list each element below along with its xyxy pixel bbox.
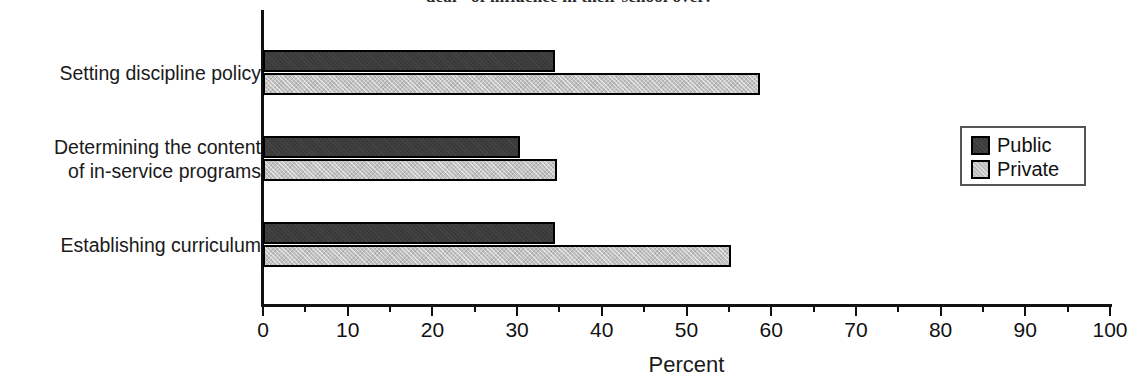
category-label-line: of in-service programs xyxy=(11,159,261,183)
x-tick-minor xyxy=(558,307,560,312)
x-tick-label: 10 xyxy=(336,318,359,342)
legend-label-private: Private xyxy=(997,159,1059,179)
x-axis-title: Percent xyxy=(261,352,1112,378)
x-tick-label: 30 xyxy=(505,318,528,342)
bar-private-2 xyxy=(263,245,731,267)
x-tick-label: 20 xyxy=(421,318,444,342)
x-tick-minor xyxy=(474,307,476,312)
category-label-1: Determining the contentof in-service pro… xyxy=(11,135,261,183)
legend-item-public: Public xyxy=(971,133,1084,157)
x-tick-label: 80 xyxy=(929,318,952,342)
x-tick-label: 60 xyxy=(760,318,783,342)
x-tick-major xyxy=(1024,307,1026,316)
x-tick-label: 90 xyxy=(1014,318,1037,342)
bar-public-0 xyxy=(263,50,555,72)
legend-swatch-public-icon xyxy=(971,136,990,155)
bar-public-2 xyxy=(263,222,555,244)
x-tick-major xyxy=(855,307,857,316)
category-label-0: Setting discipline policy xyxy=(11,61,261,85)
bar-chart: deal" of influence in their school over:… xyxy=(0,0,1137,389)
x-tick-major xyxy=(1109,307,1111,316)
category-label-line: Determining the content xyxy=(11,135,261,159)
bar-public-1 xyxy=(263,136,520,158)
legend: Public Private xyxy=(960,126,1086,186)
x-tick-minor xyxy=(982,307,984,312)
x-tick-major xyxy=(940,307,942,316)
x-tick-minor xyxy=(304,307,306,312)
x-tick-minor xyxy=(643,307,645,312)
x-tick-minor xyxy=(728,307,730,312)
x-tick-label: 100 xyxy=(1092,318,1127,342)
chart-title: deal" of influence in their school over: xyxy=(0,0,1137,7)
x-tick-label: 50 xyxy=(675,318,698,342)
x-tick-major xyxy=(262,307,264,316)
x-tick-major xyxy=(601,307,603,316)
legend-swatch-private-icon xyxy=(971,160,990,179)
x-tick-minor xyxy=(813,307,815,312)
x-tick-major xyxy=(516,307,518,316)
legend-item-private: Private xyxy=(971,157,1084,181)
x-tick-major xyxy=(347,307,349,316)
x-tick-major xyxy=(431,307,433,316)
x-tick-major xyxy=(686,307,688,316)
x-tick-label: 0 xyxy=(257,318,269,342)
x-tick-major xyxy=(770,307,772,316)
category-label-2: Establishing curriculum xyxy=(11,233,261,257)
x-tick-minor xyxy=(389,307,391,312)
x-tick-label: 70 xyxy=(844,318,867,342)
category-label-line: Setting discipline policy xyxy=(11,61,261,85)
legend-label-public: Public xyxy=(997,135,1051,155)
x-tick-label: 40 xyxy=(590,318,613,342)
bar-private-1 xyxy=(263,159,557,181)
bar-private-0 xyxy=(263,73,760,95)
x-tick-minor xyxy=(1067,307,1069,312)
category-label-line: Establishing curriculum xyxy=(11,233,261,257)
x-tick-minor xyxy=(897,307,899,312)
